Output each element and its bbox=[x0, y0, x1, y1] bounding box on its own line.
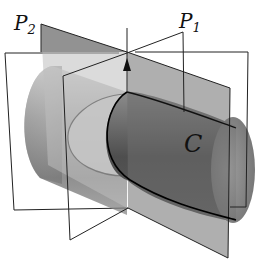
label-p2: P2 bbox=[13, 11, 36, 37]
label-curve-c: C bbox=[184, 130, 202, 158]
label-p1: P1 bbox=[178, 9, 201, 35]
diagram-canvas: P2 P1 C bbox=[0, 0, 262, 262]
